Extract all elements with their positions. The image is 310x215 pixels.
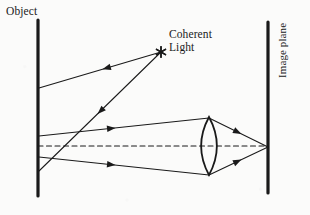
converging-ray-lower-arrowhead (232, 160, 241, 167)
optics-ray-diagram: Object Coherent Light Image plane (0, 0, 310, 215)
coherent-light-label-line2: Light (169, 41, 194, 53)
scattered-ray-upper-to-lens (39, 118, 209, 136)
coherent-light-label: Coherent Light (169, 28, 212, 54)
coherent-light-label-line1: Coherent (169, 28, 212, 40)
image-plane-label: Image plane (276, 23, 289, 78)
scattered-ray-lower-to-lens (39, 157, 209, 175)
scattered-ray-upper-to-lens-arrowhead (107, 126, 116, 132)
scattered-ray-lower-to-lens-arrowhead (107, 161, 116, 167)
object-label: Object (6, 5, 37, 18)
illumination-ray-upper-arrowhead (102, 64, 111, 70)
converging-ray-upper-arrowhead (232, 127, 241, 134)
diagram-canvas (0, 0, 310, 215)
